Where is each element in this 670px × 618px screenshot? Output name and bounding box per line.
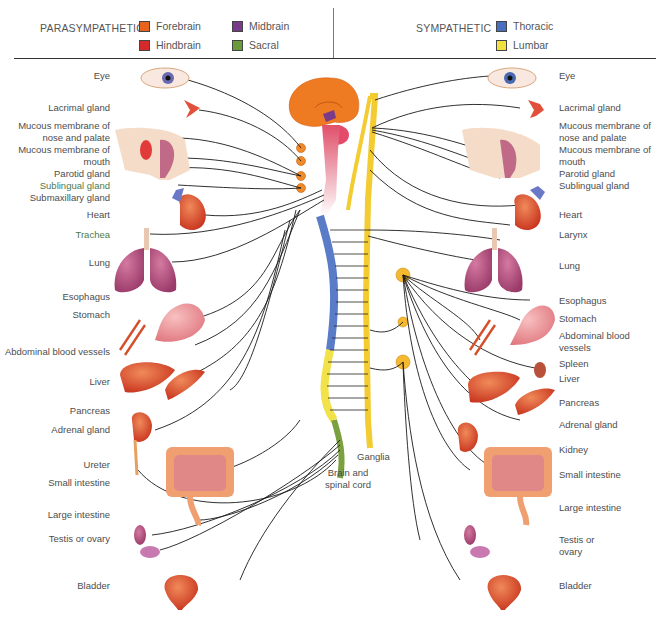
head-section-icon-left	[115, 128, 190, 180]
right-label-liver: Liver	[559, 373, 669, 385]
left-label-trachea: Trachea	[2, 229, 110, 241]
left-label-large-intestine: Large intestine	[2, 509, 110, 521]
left-label-testis-or-ovary: Testis or ovary	[0, 533, 110, 545]
testis-icon-left	[134, 525, 146, 545]
lung-icon-right	[465, 248, 492, 292]
left-label-parotid-gland: Parotid gland	[2, 168, 110, 180]
liver-icon-right	[468, 372, 520, 403]
right-label-kidney: Kidney	[559, 444, 669, 456]
right-label-lung: Lung	[559, 260, 669, 272]
ovary-icon-right	[470, 546, 490, 558]
lung-icon-left	[115, 248, 144, 292]
left-label-esophagus: Esophagus	[2, 291, 110, 303]
adrenal-kidney-icon-left	[132, 412, 152, 442]
right-label-stomach: Stomach	[559, 313, 669, 325]
right-label-abdominal-blood-vessels: Abdominal blood vessels	[559, 330, 639, 354]
right-label-mucous-mouth: Mucous membrane of mouth	[559, 144, 669, 168]
heart-icon-right	[514, 194, 540, 230]
right-label-esophagus: Esophagus	[559, 295, 669, 307]
left-label-mucous-mouth: Mucous membrane of mouth	[2, 144, 110, 168]
bladder-icon-left	[165, 575, 199, 610]
cranial-ganglia	[297, 144, 306, 193]
right-label-spleen: Spleen	[559, 358, 669, 370]
right-label-bladder: Bladder	[559, 580, 669, 592]
left-label-small-intestine: Small intestine	[2, 477, 110, 489]
lacrimal-gland-icon-left	[184, 100, 200, 118]
left-label-lung: Lung	[2, 257, 110, 269]
left-label-heart: Heart	[2, 209, 110, 221]
right-label-larynx: Larynx	[559, 229, 669, 241]
left-label-bladder: Bladder	[2, 580, 110, 592]
thoracic-cord	[320, 216, 334, 350]
lacrimal-gland-icon-right	[528, 100, 544, 118]
ureter-icon-left	[135, 440, 137, 475]
trachea-icon-left	[144, 228, 149, 250]
left-label-pancreas: Pancreas	[2, 405, 110, 417]
collateral-ganglia	[396, 268, 410, 369]
left-label-liver: Liver	[2, 376, 110, 388]
head-section-icon-right	[462, 128, 540, 178]
left-label-adrenal-gland: Adrenal gland	[2, 424, 110, 436]
left-label-mucous-nose: Mucous membrane of nose and palate	[2, 120, 110, 144]
left-label-eye: Eye	[2, 70, 110, 82]
left-label-abdominal-blood-vessels: Abdominal blood vessels	[2, 346, 110, 358]
right-label-mucous-nose: Mucous membrane of nose and palate	[559, 120, 669, 144]
brain-spinal-cord-label: Brain and spinal cord	[316, 467, 380, 491]
blood-vessels-icon-right	[470, 320, 495, 355]
ganglia-label: Ganglia	[357, 451, 390, 463]
left-organs	[115, 68, 234, 610]
right-label-pancreas: Pancreas	[559, 397, 669, 409]
right-label-large-intestine: Large intestine	[559, 502, 669, 514]
right-label-adrenal-gland: Adrenal gland	[559, 419, 669, 431]
right-label-parotid-gland: Parotid gland	[559, 168, 669, 180]
left-label-lacrimal-gland: Lacrimal gland	[2, 102, 110, 114]
right-label-small-intestine: Small intestine	[559, 469, 669, 481]
right-label-lacrimal-gland: Lacrimal gland	[559, 102, 669, 114]
kidney-icon-right	[458, 423, 478, 452]
right-label-testis-or-ovary: Testis or ovary	[559, 534, 609, 558]
stomach-icon-left	[155, 304, 205, 342]
right-label-eye: Eye	[559, 70, 669, 82]
left-label-stomach: Stomach	[2, 309, 110, 321]
right-label-sublingual-gland: Sublingual gland	[559, 180, 669, 192]
stomach-icon-right	[510, 306, 555, 345]
bladder-icon-right	[488, 575, 522, 610]
sympathetic-chain	[366, 96, 375, 448]
spleen-icon-right	[534, 362, 546, 378]
pancreas-icon-right	[515, 388, 555, 415]
blood-vessels-icon-left	[120, 320, 145, 355]
left-label-ureter: Ureter	[2, 459, 110, 471]
lumbar-cord	[325, 350, 335, 420]
left-label-submaxillary-gland: Submaxillary gland	[2, 192, 110, 204]
larynx-icon-right	[492, 228, 497, 250]
testis-icon-right	[464, 525, 476, 545]
heart-icon-left	[179, 194, 205, 230]
ovary-icon-left	[140, 546, 160, 558]
right-label-heart: Heart	[559, 209, 669, 221]
right-organs	[458, 68, 555, 610]
left-label-sublingual-gland: Sublingual gland	[2, 180, 110, 192]
